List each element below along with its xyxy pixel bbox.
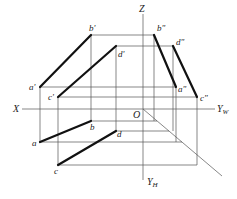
label-d-front: d' <box>118 49 126 59</box>
label-d-top: d <box>117 129 122 139</box>
segment-ab-top <box>40 121 91 142</box>
segment-ab-front <box>40 35 91 87</box>
origin-label: O <box>133 109 140 120</box>
yw-axis-label: YW <box>217 103 230 116</box>
label-c-front: c' <box>48 92 55 102</box>
label-a-side: a" <box>178 84 187 94</box>
label-c-top: c <box>54 166 58 176</box>
label-a-top: a <box>32 138 37 148</box>
label-c-side: c" <box>200 93 208 103</box>
projection-diagram: Z X O YW YH a' b' c' d' b" d" a" c" a b … <box>0 0 237 199</box>
segment-cd-top <box>58 131 116 165</box>
yh-axis-label: YH <box>147 176 159 189</box>
label-d-side: d" <box>176 37 185 47</box>
label-b-side: b" <box>157 23 166 33</box>
diagonal-45-line <box>143 109 222 176</box>
label-b-top: b <box>90 122 95 132</box>
label-b-front: b' <box>89 23 97 33</box>
segment-cd-front <box>58 46 116 97</box>
x-axis-label: X <box>12 103 20 114</box>
label-a-front: a' <box>29 82 37 92</box>
z-axis-label: Z <box>139 3 145 14</box>
